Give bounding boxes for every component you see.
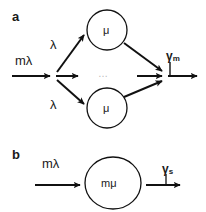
panel-a-branch-label-top: λ — [50, 38, 57, 51]
panel-a-node-bottom-label: μ — [103, 103, 109, 114]
panel-a-branch-arrow-bottom — [57, 80, 84, 104]
panel-a-ellipsis: … — [98, 69, 109, 79]
panel-b-output-label: γs — [162, 163, 173, 175]
panel-a-output-label: γm — [166, 50, 180, 62]
panel-b-node-label: mμ — [101, 178, 117, 189]
panel-a-input-label: mλ — [15, 54, 32, 67]
panel-a-output-symbol: γ — [166, 49, 173, 63]
panel-a-branch-label-bottom: λ — [50, 98, 57, 111]
panel-b-output-symbol: γ — [162, 162, 169, 176]
panel-a-letter: a — [12, 10, 19, 23]
panel-a-output-arrow — [168, 62, 197, 76]
panel-b-letter: b — [12, 148, 20, 161]
panel-a-node-top-label: μ — [103, 25, 109, 36]
panel-b-input-label: mλ — [42, 157, 59, 170]
panel-a-output-subscript: m — [173, 54, 180, 63]
panel-b-output-subscript: s — [169, 167, 173, 176]
figure-container: a mλ λ λ μ μ … γm b mλ mμ γs — [0, 0, 206, 212]
panel-a-merge-arrow-bottom — [124, 81, 162, 97]
panel-a-branch-arrow-top — [57, 35, 84, 72]
panel-a-merge-arrow-top — [124, 43, 162, 71]
